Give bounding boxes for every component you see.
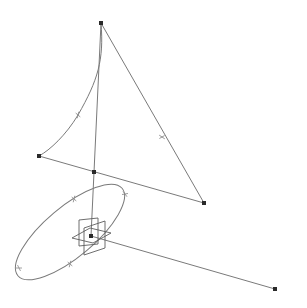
vertices-group[interactable] (37, 21, 277, 291)
edges-group (39, 23, 275, 289)
3d-viewport[interactable] (0, 0, 307, 308)
edge-curve-top-left[interactable] (39, 23, 102, 156)
tick-mark-icon (74, 111, 82, 119)
tick-mark-icon (16, 265, 22, 271)
orbit-ellipse[interactable] (2, 169, 138, 295)
edge-line-origin-far[interactable] (91, 236, 275, 289)
vertex-top[interactable] (99, 21, 103, 25)
edge-line-left-right[interactable] (39, 156, 204, 203)
vertex-right[interactable] (202, 201, 206, 205)
edge-line-top-origin[interactable] (91, 23, 101, 236)
vertex-mid[interactable] (92, 170, 96, 174)
vertex-origin[interactable] (89, 234, 93, 238)
edge-line-top-right[interactable] (101, 23, 204, 203)
orbit-ellipse-group (2, 169, 138, 295)
vertex-far[interactable] (273, 287, 277, 291)
vertex-left[interactable] (37, 154, 41, 158)
wireframe-canvas[interactable] (0, 0, 307, 308)
